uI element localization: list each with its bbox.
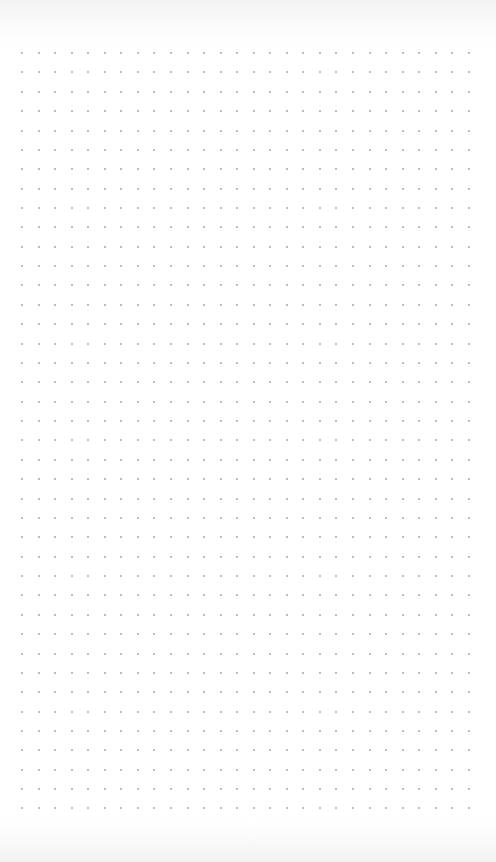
grid-dot [153,594,155,596]
grid-dot [335,498,337,500]
grid-dot [352,711,354,713]
grid-dot [71,575,73,577]
grid-dot [418,91,420,93]
grid-dot [220,575,222,577]
grid-dot [220,207,222,209]
grid-dot [269,362,271,364]
grid-dot [187,188,189,190]
grid-dot [203,52,205,54]
grid-dot [352,246,354,248]
grid-dot [87,226,89,228]
grid-dot [253,691,255,693]
grid-dot [203,71,205,73]
grid-dot [352,653,354,655]
grid-dot [286,71,288,73]
grid-dot [286,284,288,286]
grid-dot [203,420,205,422]
grid-dot [369,265,371,267]
grid-dot [104,788,106,790]
grid-dot [187,749,189,751]
grid-dot [369,110,371,112]
grid-dot [203,284,205,286]
grid-dot [319,110,321,112]
grid-dot [451,711,453,713]
grid-dot [302,246,304,248]
grid-dot [153,691,155,693]
grid-dot [236,730,238,732]
grid-dot [120,149,122,151]
grid-dot [120,575,122,577]
grid-dot [335,730,337,732]
grid-dot [402,226,404,228]
grid-dot [120,188,122,190]
grid-dot [435,556,437,558]
grid-dot [286,265,288,267]
grid-dot [137,575,139,577]
grid-dot [87,807,89,809]
grid-dot [468,71,470,73]
grid-dot [435,420,437,422]
grid-dot [21,769,23,771]
grid-dot [38,769,40,771]
grid-dot [468,711,470,713]
grid-dot [120,265,122,267]
grid-dot [153,188,155,190]
grid-dot [319,323,321,325]
grid-dot [468,478,470,480]
grid-dot [203,769,205,771]
grid-dot [170,188,172,190]
grid-dot [385,653,387,655]
grid-dot [269,575,271,577]
grid-dot [451,536,453,538]
grid-dot [38,459,40,461]
grid-dot [253,149,255,151]
grid-dot [352,91,354,93]
grid-dot [352,749,354,751]
grid-dot [369,91,371,93]
grid-dot [220,91,222,93]
grid-dot [286,110,288,112]
grid-dot [203,788,205,790]
grid-dot [352,769,354,771]
grid-dot [236,711,238,713]
grid-dot [286,149,288,151]
grid-dot [319,246,321,248]
grid-dot [335,672,337,674]
grid-dot [170,401,172,403]
grid-dot [385,226,387,228]
grid-dot [253,730,255,732]
grid-dot [468,246,470,248]
grid-dot [21,807,23,809]
grid-dot [170,459,172,461]
grid-dot [54,91,56,93]
grid-dot [302,788,304,790]
grid-dot [120,730,122,732]
grid-dot [269,110,271,112]
grid-dot [302,653,304,655]
grid-dot [137,439,139,441]
grid-dot [104,188,106,190]
grid-dot [104,711,106,713]
grid-dot [120,362,122,364]
grid-dot [468,304,470,306]
grid-dot [269,536,271,538]
grid-dot [54,672,56,674]
grid-dot [435,52,437,54]
grid-dot [302,711,304,713]
grid-dot [71,168,73,170]
grid-dot [71,401,73,403]
grid-dot [369,498,371,500]
grid-dot [418,439,420,441]
grid-dot [54,614,56,616]
grid-dot [137,672,139,674]
grid-dot [203,168,205,170]
grid-dot [104,575,106,577]
grid-dot [187,130,189,132]
grid-dot [253,130,255,132]
grid-dot [385,323,387,325]
grid-dot [335,323,337,325]
grid-dot [451,343,453,345]
grid-dot [352,207,354,209]
grid-dot [236,130,238,132]
grid-dot [385,304,387,306]
